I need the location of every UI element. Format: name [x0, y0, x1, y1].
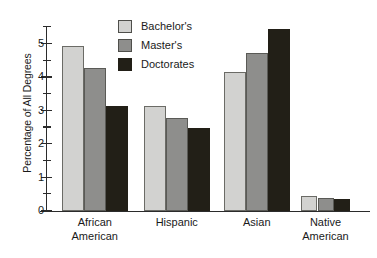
y-tick-label: 0: [22, 205, 44, 216]
y-tick-label: 2: [22, 138, 44, 149]
x-axis-label-line2: American: [281, 230, 371, 244]
bar-chart: Percentage of All Degrees 012345 African…: [0, 0, 377, 258]
x-axis-label-4: NativeAmerican: [281, 216, 371, 243]
bar-doctorates: [334, 199, 350, 211]
x-axis-label-line1: Native: [310, 216, 341, 228]
y-tick-minor: [43, 60, 51, 61]
legend-item-label: Doctorates: [141, 59, 194, 70]
y-tick-minor: [43, 193, 51, 194]
y-tick-minor: [43, 126, 51, 127]
legend-swatch-icon: [118, 58, 132, 71]
legend-swatch-icon: [118, 39, 132, 52]
bar-masters: [166, 118, 188, 211]
y-tick-minor: [43, 160, 51, 161]
bar-doctorates: [268, 29, 290, 211]
legend-item-label: Bachelor's: [141, 21, 192, 32]
bar-masters: [318, 198, 334, 211]
y-axis-line: [46, 26, 47, 212]
y-tick-label: 3: [22, 105, 44, 116]
bar-bachelors: [62, 46, 84, 211]
y-tick-label: 1: [22, 172, 44, 183]
x-axis-label-line1: Hispanic: [156, 216, 198, 228]
bar-bachelors: [224, 72, 246, 211]
bar-masters: [84, 68, 106, 211]
bar-bachelors: [144, 106, 166, 211]
x-axis-label-1: AfricanAmerican: [50, 216, 140, 243]
bar-masters: [246, 53, 268, 211]
x-axis-label-2: Hispanic: [132, 216, 222, 230]
legend-item-doctorates: Doctorates: [118, 55, 194, 74]
x-axis-label-line1: Asian: [243, 216, 271, 228]
y-tick-minor: [43, 26, 51, 27]
x-axis-label-line2: American: [50, 230, 140, 244]
bar-doctorates: [188, 128, 210, 211]
legend-item-bachelors: Bachelor's: [118, 17, 194, 36]
legend-item-masters: Master's: [118, 36, 194, 55]
legend-item-label: Master's: [141, 40, 182, 51]
legend: Bachelor'sMaster'sDoctorates: [118, 17, 194, 74]
bar-bachelors: [301, 196, 317, 211]
y-tick-label: 5: [22, 38, 44, 49]
legend-swatch-icon: [118, 20, 132, 33]
y-tick-label: 4: [22, 71, 44, 82]
x-axis-label-line1: African: [78, 216, 112, 228]
y-tick-minor: [43, 93, 51, 94]
bar-doctorates: [106, 106, 128, 211]
